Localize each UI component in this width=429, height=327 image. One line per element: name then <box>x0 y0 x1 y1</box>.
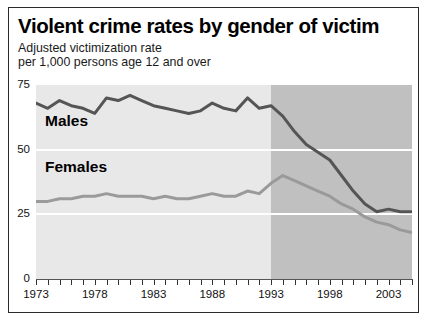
x-tick-1978 <box>95 280 96 285</box>
x-tick-1997 <box>318 280 319 285</box>
y-tick-label-75: 75 <box>2 78 30 90</box>
x-tick-1991 <box>248 280 249 285</box>
chart-title: Violent crime rates by gender of victim <box>18 14 379 38</box>
x-tick-1996 <box>306 280 307 285</box>
x-tick-1988 <box>212 280 213 285</box>
x-tick-1990 <box>236 280 237 285</box>
series-line-males <box>36 95 412 211</box>
x-tick-1987 <box>201 280 202 285</box>
x-tick-1980 <box>118 280 119 285</box>
x-tick-1985 <box>177 280 178 285</box>
y-tick-label-50: 50 <box>2 143 30 155</box>
x-tick-1983 <box>154 280 155 285</box>
chart-subtitle-line-1: Adjusted victimization rate <box>18 41 162 55</box>
x-tick-1993 <box>271 280 272 285</box>
x-tick-label-1983: 1983 <box>141 288 167 300</box>
x-tick-1989 <box>224 280 225 285</box>
x-tick-label-2003: 2003 <box>376 288 402 300</box>
chart-figure: Violent crime rates by gender of victim … <box>0 0 429 327</box>
x-tick-1973 <box>36 280 37 285</box>
x-tick-1984 <box>165 280 166 285</box>
x-tick-1986 <box>189 280 190 285</box>
x-tick-2000 <box>353 280 354 285</box>
x-tick-1981 <box>130 280 131 285</box>
x-tick-label-1988: 1988 <box>199 288 225 300</box>
plot-area <box>36 85 412 279</box>
x-tick-1995 <box>295 280 296 285</box>
x-tick-1994 <box>283 280 284 285</box>
x-tick-label-1978: 1978 <box>82 288 108 300</box>
x-tick-label-1973: 1973 <box>23 288 49 300</box>
x-tick-2004 <box>400 280 401 285</box>
x-tick-1976 <box>71 280 72 285</box>
series-lines <box>36 85 412 279</box>
x-tick-2003 <box>389 280 390 285</box>
x-tick-1999 <box>342 280 343 285</box>
x-tick-1975 <box>60 280 61 285</box>
series-label-males: Males <box>45 112 88 130</box>
series-line-females <box>36 176 412 233</box>
x-tick-2005 <box>412 280 413 285</box>
chart-subtitle-line-2: per 1,000 persons age 12 and over <box>18 55 211 69</box>
x-tick-1992 <box>259 280 260 285</box>
x-tick-1982 <box>142 280 143 285</box>
y-tick-label-0: 0 <box>2 272 30 284</box>
x-tick-label-1993: 1993 <box>258 288 284 300</box>
x-tick-1977 <box>83 280 84 285</box>
x-tick-label-1998: 1998 <box>317 288 343 300</box>
x-tick-1974 <box>48 280 49 285</box>
x-tick-2002 <box>377 280 378 285</box>
x-tick-1979 <box>107 280 108 285</box>
x-tick-1998 <box>330 280 331 285</box>
x-tick-2001 <box>365 280 366 285</box>
y-tick-label-25: 25 <box>2 207 30 219</box>
series-label-females: Females <box>45 158 107 176</box>
